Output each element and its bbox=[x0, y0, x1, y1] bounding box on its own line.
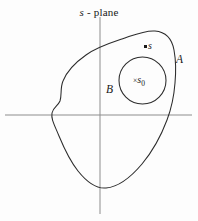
s-plane-diagram: s - plane s ×s0 A B bbox=[0, 0, 198, 221]
region-label-B: B bbox=[106, 83, 113, 95]
diagram-canvas bbox=[0, 0, 198, 221]
point-s-label: s bbox=[148, 40, 152, 51]
figure-title-text: - plane bbox=[87, 6, 119, 18]
region-label-A: A bbox=[176, 53, 183, 65]
point-s0-subscript: 0 bbox=[141, 79, 145, 88]
point-s0-label: ×s0 bbox=[133, 74, 145, 88]
point-s-marker bbox=[144, 45, 147, 48]
figure-title-symbol: s bbox=[79, 6, 83, 18]
figure-title: s - plane bbox=[0, 6, 198, 18]
outer-region-boundary-A bbox=[52, 31, 176, 188]
axes-group bbox=[5, 17, 192, 214]
